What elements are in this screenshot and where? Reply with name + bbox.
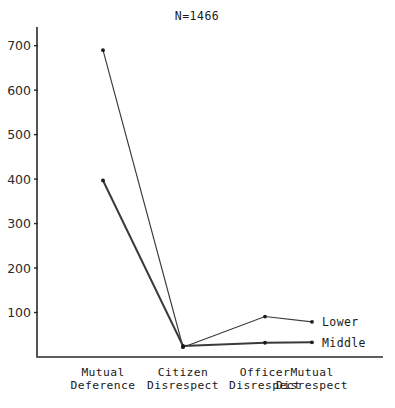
chart-container: N=1466 700600500400300200100 MutualDefer…	[0, 0, 395, 408]
data-point-lower-0	[101, 48, 105, 52]
data-series-group	[103, 50, 312, 347]
x-tick-label-3-line-1: Disrespect	[276, 379, 348, 392]
y-tick-label-100: 100	[7, 305, 31, 320]
legend-label-lower: Lower	[322, 315, 359, 329]
y-tick-label-300: 300	[7, 216, 31, 231]
data-point-middle-1	[181, 344, 185, 348]
y-tick-label-600: 600	[7, 83, 31, 98]
chart-legend: LowerMiddle	[312, 315, 366, 349]
series-line-lower	[103, 50, 312, 347]
data-point-middle-2	[263, 341, 267, 345]
data-point-lower-2	[263, 315, 267, 319]
y-tick-label-700: 700	[7, 38, 31, 53]
series-line-middle	[103, 180, 312, 345]
y-tick-label-400: 400	[7, 172, 31, 187]
data-point-markers	[101, 48, 314, 349]
x-tick-label-0-line-0: Mutual	[81, 366, 124, 379]
x-tick-label-3-line-0: Mutual	[290, 366, 333, 379]
x-tick-label-1-line-0: Citizen	[158, 366, 208, 379]
line-chart: N=1466 700600500400300200100 MutualDefer…	[0, 0, 395, 408]
x-tick-label-0-line-1: Deference	[71, 379, 136, 392]
y-tick-label-500: 500	[7, 127, 31, 142]
chart-title: N=1466	[175, 9, 220, 23]
legend-label-middle: Middle	[322, 336, 366, 350]
x-tick-label-1-line-1: Disrespect	[147, 379, 219, 392]
chart-axes	[37, 27, 383, 357]
y-tick-label-200: 200	[7, 261, 31, 276]
y-axis-tick-labels: 700600500400300200100	[7, 38, 31, 320]
x-tick-label-2-line-0: Officer	[240, 366, 290, 379]
x-axis-tick-labels: MutualDeferenceCitizenDisrespectOfficerD…	[71, 366, 348, 392]
data-point-middle-0	[101, 179, 105, 183]
